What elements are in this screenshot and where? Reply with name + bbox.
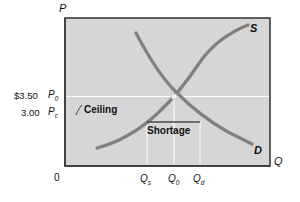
p0-symbol-letter: P	[48, 89, 55, 100]
supply-curve-label: S	[250, 22, 257, 34]
q0-symbol-letter: Q	[168, 173, 176, 184]
q0-symbol-subscript: 0	[176, 179, 180, 186]
qd-symbol-letter: Q	[193, 173, 201, 184]
y-axis-label: P	[59, 2, 66, 14]
quantity-tick-q0: Q0	[168, 173, 179, 186]
ceiling-annotation-label: Ceiling	[84, 104, 117, 115]
plot-area-background	[65, 18, 270, 166]
qd-symbol-subscript: d	[201, 179, 205, 186]
qs-symbol-letter: Q	[140, 173, 148, 184]
equilibrium-point-marker	[172, 94, 177, 99]
quantity-tick-qs: Qs	[140, 173, 151, 186]
shortage-annotation-label: Shortage	[147, 125, 190, 136]
price-tick-p0-value: $3.50	[14, 90, 38, 101]
quantity-tick-qd: Qd	[193, 173, 204, 186]
price-tick-pc-value: 3.00	[21, 107, 40, 118]
price-tick-pc-symbol: Pc	[48, 106, 58, 119]
origin-label: 0	[54, 172, 60, 183]
demand-curve-label: D	[254, 144, 262, 156]
supply-demand-price-ceiling-chart: P Q 0 $3.50 P0 3.00 Pc Qs Q0 Qd Ceiling …	[0, 0, 300, 202]
pc-symbol-letter: P	[48, 106, 55, 117]
x-axis-label: Q	[274, 155, 283, 167]
price-tick-p0-symbol: P0	[48, 89, 58, 102]
p0-symbol-subscript: 0	[55, 95, 59, 102]
pc-symbol-subscript: c	[55, 112, 58, 119]
qs-symbol-subscript: s	[148, 179, 151, 186]
